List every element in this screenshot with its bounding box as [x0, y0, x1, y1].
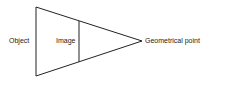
object-label: Object — [9, 37, 29, 45]
upper-ray — [36, 7, 142, 41]
image-label: Image — [56, 37, 75, 45]
lower-ray — [36, 41, 142, 76]
geometrical-point-label: Geometrical point — [145, 37, 200, 45]
